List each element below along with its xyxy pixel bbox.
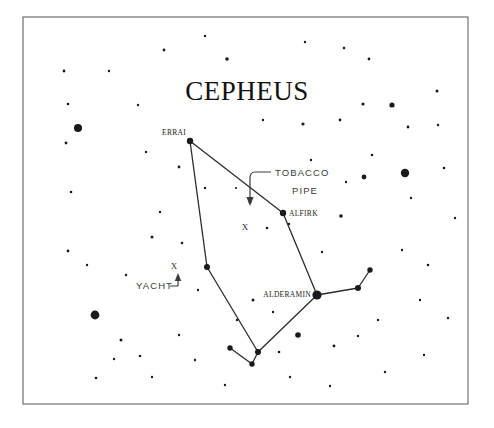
background-star <box>345 181 347 183</box>
background-star <box>321 251 323 253</box>
background-star <box>278 351 281 354</box>
page-title: CEPHEUS <box>185 76 309 106</box>
star-name-label: ALFIRK <box>289 209 318 218</box>
background-star <box>436 90 439 93</box>
constellation-star[interactable] <box>355 285 361 291</box>
star-name-label: ERRAI <box>162 128 186 137</box>
background-star <box>423 354 425 356</box>
background-star <box>137 104 139 106</box>
background-star <box>410 197 412 199</box>
background-star <box>361 102 364 105</box>
background-star <box>301 122 304 125</box>
background-star <box>235 187 237 189</box>
background-star <box>339 214 343 218</box>
background-star <box>437 124 439 126</box>
constellation-star[interactable] <box>367 267 372 272</box>
background-star <box>401 249 403 251</box>
asterism-x-marker: X <box>171 261 178 271</box>
background-star <box>310 159 312 161</box>
asterism-label-line1: TOBACCO <box>275 167 330 178</box>
background-star <box>159 211 161 213</box>
constellation-star[interactable] <box>227 345 232 350</box>
background-star <box>289 376 291 378</box>
star-name-label: ALDERAMIN <box>263 290 311 299</box>
background-star <box>204 187 206 189</box>
background-star <box>304 41 306 43</box>
background-star <box>86 264 88 266</box>
background-star <box>65 142 68 145</box>
background-star <box>113 358 115 360</box>
background-star <box>224 384 226 386</box>
background-star <box>339 119 342 122</box>
asterism-label-line1: YACHT <box>136 280 173 291</box>
sky-canvas: TOBACCOPIPEXYACHTX ERRAIALFIRKALDERAMIN … <box>0 0 494 428</box>
background-star <box>407 126 410 129</box>
background-star <box>454 217 456 219</box>
background-star <box>371 154 374 157</box>
background-star <box>120 339 123 342</box>
background-star <box>178 166 181 169</box>
background-star <box>343 47 346 50</box>
background-star <box>67 103 70 106</box>
background-star <box>151 376 153 378</box>
star-chart: TOBACCOPIPEXYACHTX ERRAIALFIRKALDERAMIN … <box>0 0 494 428</box>
background-star <box>178 334 180 336</box>
background-star <box>67 250 70 253</box>
background-star <box>377 319 379 321</box>
background-star <box>74 124 82 132</box>
background-star <box>262 119 264 121</box>
background-star <box>368 58 371 61</box>
constellation-star[interactable] <box>204 264 210 270</box>
background-star <box>139 355 142 358</box>
constellation-star[interactable] <box>187 138 193 144</box>
background-star <box>125 274 127 276</box>
background-star <box>63 70 66 73</box>
background-star <box>443 167 446 170</box>
constellation-star[interactable] <box>280 210 286 216</box>
background-star <box>419 299 421 301</box>
constellation-star[interactable] <box>312 290 321 299</box>
background-star <box>333 345 336 348</box>
background-star <box>204 35 206 37</box>
background-star <box>384 371 386 373</box>
chart-background <box>0 0 494 428</box>
constellation-star[interactable] <box>255 349 261 355</box>
asterism-label-line2: PIPE <box>292 185 318 196</box>
background-star <box>194 359 196 361</box>
background-star <box>447 317 449 319</box>
background-star <box>197 289 199 291</box>
background-star <box>401 169 409 177</box>
background-star <box>357 335 359 337</box>
background-star <box>266 227 269 230</box>
asterism-x-marker: X <box>242 222 249 232</box>
background-star <box>70 191 73 194</box>
background-star <box>145 151 147 153</box>
background-star <box>225 57 229 61</box>
background-star <box>329 385 331 387</box>
background-star <box>95 377 98 380</box>
background-star <box>427 264 430 267</box>
background-star <box>181 242 184 245</box>
background-star <box>272 311 274 313</box>
background-star <box>91 311 100 320</box>
background-star <box>108 70 110 72</box>
background-star <box>295 332 301 338</box>
constellation-star[interactable] <box>249 361 254 366</box>
background-star <box>362 175 367 180</box>
background-star <box>151 236 154 239</box>
background-star <box>252 299 255 302</box>
background-star <box>389 102 394 107</box>
background-star <box>163 49 166 52</box>
